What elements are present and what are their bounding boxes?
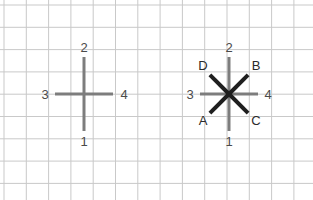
label-left-3: 3 xyxy=(186,88,193,101)
four-direction-cross xyxy=(55,57,113,131)
label-down-1: 1 xyxy=(225,135,232,148)
label-down-1: 1 xyxy=(80,135,87,148)
diagram-canvas: 21342134DBAC xyxy=(0,0,313,200)
label-right-4: 4 xyxy=(264,88,271,101)
eight-direction-star xyxy=(200,57,258,131)
label-up-right-b: B xyxy=(252,59,261,72)
label-right-4: 4 xyxy=(120,88,127,101)
label-down-left-a: A xyxy=(199,114,208,127)
label-left-3: 3 xyxy=(41,88,48,101)
arm-down-left xyxy=(210,94,229,113)
arm-down-right xyxy=(229,94,248,113)
label-up-2: 2 xyxy=(225,41,232,54)
label-up-left-d: D xyxy=(198,59,207,72)
arm-up-right xyxy=(229,75,248,94)
label-down-right-c: C xyxy=(251,114,260,127)
label-up-2: 2 xyxy=(80,41,87,54)
arm-up-left xyxy=(210,75,229,94)
